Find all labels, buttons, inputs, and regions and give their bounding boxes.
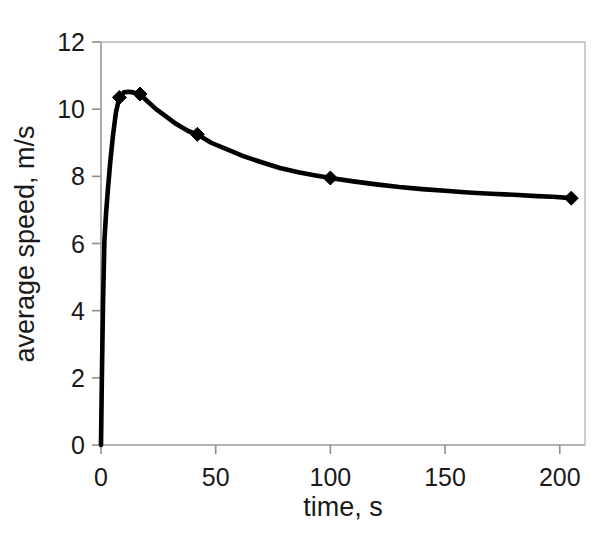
x-tick-label: 200 (539, 463, 581, 491)
y-tick-label: 4 (71, 297, 85, 325)
y-tick-label: 0 (71, 431, 85, 459)
y-tick-label: 2 (71, 364, 85, 392)
y-axis-title: average speed, m/s (10, 125, 40, 362)
y-tick-label: 12 (57, 28, 85, 56)
chart-plot-area: 050100150200 024681012 time, s average s… (0, 0, 607, 547)
y-tick-label: 8 (71, 162, 85, 190)
chart-figure: 050100150200 024681012 time, s average s… (0, 0, 607, 547)
x-tick-label: 0 (94, 463, 108, 491)
y-tick-label: 10 (57, 95, 85, 123)
x-axis-title: time, s (303, 492, 383, 522)
x-tick-label: 50 (202, 463, 230, 491)
x-tick-label: 100 (310, 463, 352, 491)
x-tick-label: 150 (424, 463, 466, 491)
y-tick-label: 6 (71, 230, 85, 258)
chart-background (0, 0, 607, 547)
